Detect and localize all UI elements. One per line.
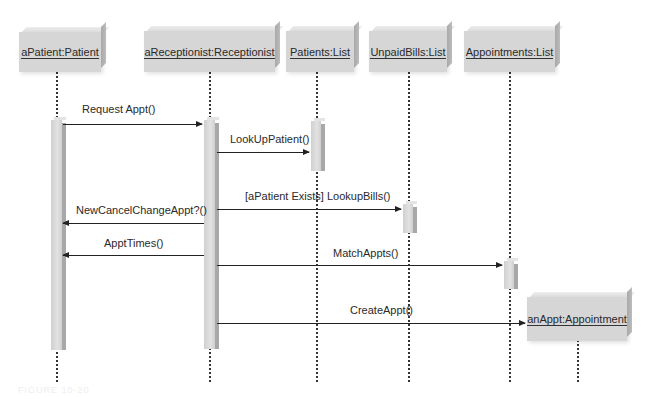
- object-label: anAppt:Appointment: [527, 313, 627, 326]
- message-arrow-lookup-bills: [217, 209, 401, 210]
- message-label-new-cancel-change-appt: NewCancelChangeAppt?(): [76, 204, 207, 216]
- object-label: Patients:List: [290, 46, 350, 59]
- message-label-lookup-bills: [aPatient Exists] LookupBills(): [245, 190, 391, 202]
- message-label-appt-times: ApptTimes(): [104, 237, 164, 249]
- message-label-lookup-patient: LookUpPatient(): [230, 133, 310, 145]
- message-arrow-lookup-patient: [217, 152, 309, 153]
- message-arrow-request-appt: [63, 124, 202, 125]
- lifeline-appt: [577, 340, 579, 382]
- lifeline-appointments: [509, 72, 511, 382]
- message-label-match-appts: MatchAppts(): [333, 247, 398, 259]
- object-label: aReceptionist:Receptionist: [144, 46, 274, 59]
- object-appointments: Appointments:List: [464, 31, 555, 72]
- activation-unpaid-bills: [403, 204, 413, 233]
- activation-patient: [51, 120, 62, 350]
- message-arrow-appt-times: [63, 255, 204, 256]
- message-label-request-appt: Request Appt(): [82, 103, 155, 115]
- object-receptionist: aReceptionist:Receptionist: [144, 31, 275, 72]
- figure-label: FIGURE 10-20: [18, 385, 90, 395]
- message-label-create-appt: CreateAppt(): [350, 304, 413, 316]
- object-patient: aPatient:Patient: [19, 32, 101, 72]
- message-arrow-new-cancel-change-appt: [63, 223, 204, 224]
- object-appt: anAppt:Appointment: [527, 297, 627, 341]
- activation-patients-list: [311, 121, 321, 171]
- object-label: aPatient:Patient: [21, 46, 99, 59]
- object-label: UnpaidBills:List: [370, 46, 445, 59]
- activation-receptionist: [204, 120, 215, 349]
- object-unpaid-bills: UnpaidBills:List: [369, 31, 447, 72]
- message-arrow-create-appt: [217, 323, 525, 324]
- activation-appointments: [504, 261, 514, 289]
- object-patients-list: Patients:List: [286, 31, 354, 72]
- object-label: Appointments:List: [466, 46, 553, 59]
- message-arrow-match-appts: [217, 265, 502, 266]
